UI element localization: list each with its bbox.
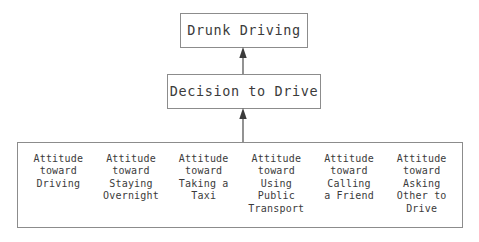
node-drunk-driving-label: Drunk Driving [187,24,300,38]
attitude-columns: Attitude toward Driving Attitude toward … [22,153,458,221]
node-drunk-driving: Drunk Driving [180,13,308,48]
node-attitudes-group: Attitude toward Driving Attitude toward … [17,142,463,228]
attitude-item-staying-overnight: Attitude toward Staying Overnight [95,153,168,203]
arrow-decision-to-drunk-driving [235,47,251,75]
attitude-item-asking-other-to-drive: Attitude toward Asking Other to Drive [385,153,458,215]
attitude-item-public-transport: Attitude toward Using Public Transport [240,153,313,215]
diagram-canvas: Drunk Driving Decision to Drive Attitude… [0,0,479,242]
node-decision-to-drive: Decision to Drive [167,74,321,109]
attitude-item-taking-taxi: Attitude toward Taking a Taxi [167,153,240,203]
arrow-attitudes-to-decision [235,108,251,143]
attitude-item-driving: Attitude toward Driving [22,153,95,190]
node-decision-to-drive-label: Decision to Drive [170,85,318,99]
attitude-item-calling-friend: Attitude toward Calling a Friend [313,153,386,203]
